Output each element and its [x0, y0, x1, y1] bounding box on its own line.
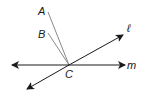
label-line-l: ℓ: [126, 22, 131, 34]
label-a: A: [37, 5, 45, 17]
line-l-lower: [27, 65, 69, 89]
label-c: C: [65, 68, 73, 80]
geometry-diagram: A B C ℓ m: [0, 0, 142, 91]
label-line-m: m: [127, 59, 136, 71]
label-b: B: [38, 28, 45, 40]
line-l-upper: [69, 35, 123, 65]
